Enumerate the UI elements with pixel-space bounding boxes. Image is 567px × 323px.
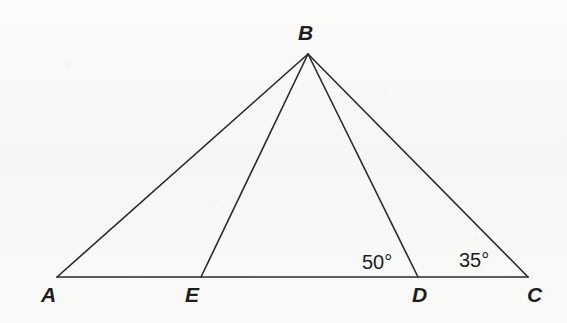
segment-bc [308, 54, 528, 277]
segment-be-cevian [201, 54, 308, 277]
vertex-label-d: D [412, 284, 427, 305]
geometry-drawing [0, 0, 567, 323]
segment-ab [57, 54, 308, 277]
vertex-label-c: C [527, 284, 542, 305]
vertex-label-a: A [41, 284, 56, 305]
vertex-label-e: E [185, 284, 199, 305]
segment-bd-cevian [308, 54, 418, 277]
angle-label-bcd-35: 35° [459, 250, 489, 270]
geometry-figure-canvas: A E D C B 50° 35° [0, 0, 567, 323]
angle-label-bdc-50: 50° [362, 252, 392, 272]
vertex-label-b: B [298, 22, 313, 43]
